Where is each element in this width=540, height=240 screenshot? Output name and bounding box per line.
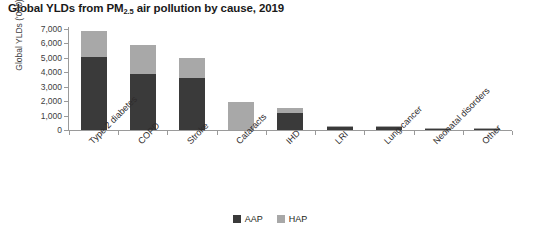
legend-swatch-icon: [233, 215, 241, 223]
x-axis-tick-mark: [414, 131, 415, 135]
y-axis-tick-label: 0: [22, 126, 62, 135]
y-axis-tick-label: 7,000: [22, 25, 62, 34]
legend-item-aap[interactable]: AAP: [233, 214, 263, 224]
legend-item-hap[interactable]: HAP: [277, 214, 308, 224]
legend-swatch-icon: [277, 215, 285, 223]
bar-group[interactable]: [167, 29, 216, 130]
x-axis-tick-mark: [217, 131, 218, 135]
y-axis-tick-label: 6,000: [22, 39, 62, 48]
x-axis-tick-mark: [266, 131, 267, 135]
bar-segment-aap[interactable]: [425, 129, 451, 130]
bar-group[interactable]: [414, 29, 463, 130]
chart-title-subscript: 2.5: [123, 7, 133, 16]
bar-segment-hap[interactable]: [81, 31, 107, 57]
bar-stack[interactable]: [179, 58, 205, 130]
bar-segment-aap[interactable]: [277, 113, 303, 130]
bar-group[interactable]: [315, 29, 364, 130]
bar-group[interactable]: [118, 29, 167, 130]
legend-label: HAP: [289, 214, 308, 224]
bar-segment-hap[interactable]: [179, 58, 205, 78]
y-axis-tick-label: 4,000: [22, 68, 62, 77]
bar-stack[interactable]: [277, 108, 303, 130]
bar-stack[interactable]: [130, 45, 156, 130]
x-axis-tick-mark: [364, 131, 365, 135]
bar-group[interactable]: [266, 29, 315, 130]
bar-segment-aap[interactable]: [376, 127, 402, 130]
bar-stack[interactable]: [81, 31, 107, 130]
chart-title: Global YLDs from PM2.5 air pollution by …: [8, 2, 284, 14]
bar-stack[interactable]: [327, 126, 353, 130]
bar-group[interactable]: [463, 29, 512, 130]
x-axis-tick-mark: [315, 131, 316, 135]
bar-group[interactable]: [69, 29, 118, 130]
bar-group[interactable]: [364, 29, 413, 130]
y-axis-tick-label: 1,000: [22, 111, 62, 120]
x-axis-tick-mark: [118, 131, 119, 135]
bar-stack[interactable]: [376, 126, 402, 130]
y-axis-tick-label: 5,000: [22, 54, 62, 63]
x-axis-tick-mark: [463, 131, 464, 135]
chart-title-prefix: Global YLDs from PM: [8, 2, 123, 14]
bar-stack[interactable]: [474, 128, 500, 130]
bar-stack[interactable]: [425, 128, 451, 130]
bar-group[interactable]: [217, 29, 266, 130]
y-axis-tick-label: 3,000: [22, 82, 62, 91]
y-axis-tick-labels: 7,0006,0005,0004,0003,0002,0001,0000: [22, 24, 62, 136]
x-axis-tick-mark: [167, 131, 168, 135]
bar-segment-hap[interactable]: [228, 102, 254, 130]
x-axis-tick-mark: [512, 131, 513, 135]
bar-segment-aap[interactable]: [81, 57, 107, 130]
x-axis-tick-mark: [69, 131, 70, 135]
bar-stack[interactable]: [228, 102, 254, 130]
bar-segment-aap[interactable]: [474, 129, 500, 130]
chart-legend: AAPHAP: [0, 214, 540, 224]
legend-label: AAP: [245, 214, 263, 224]
x-axis-tick-marks: [69, 131, 512, 136]
bar-segment-aap[interactable]: [130, 74, 156, 130]
y-axis-tick-label: 2,000: [22, 97, 62, 106]
bar-segment-aap[interactable]: [327, 127, 353, 130]
chart-title-suffix: air pollution by cause, 2019: [134, 2, 285, 14]
bar-segment-hap[interactable]: [130, 45, 156, 75]
chart-container: Global YLDs from PM2.5 air pollution by …: [0, 0, 540, 240]
bar-segment-aap[interactable]: [179, 78, 205, 130]
plot-area: [69, 29, 512, 130]
